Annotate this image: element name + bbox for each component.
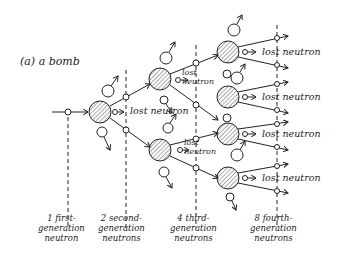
diagram-title: (a) a bomb bbox=[20, 55, 80, 68]
generation-label-1: 1 first- generation neutron bbox=[38, 213, 85, 243]
generation-label-2: 2 second- generation neutrons bbox=[98, 213, 145, 243]
generation-label-4: 8 fourth- generation neutrons bbox=[250, 213, 297, 243]
lost-neutron-label: lost neutron bbox=[182, 68, 212, 86]
lost-neutron-label: lost neutron bbox=[262, 91, 321, 102]
lost-neutron-label: lost neutron bbox=[262, 128, 321, 139]
generation-label-3: 4 third- generation neutrons bbox=[170, 213, 217, 243]
chain-reaction-diagram: (a) a bomb lost neutron lost neutron los… bbox=[0, 0, 355, 262]
lost-neutron-label: lost neutron bbox=[262, 172, 321, 183]
lost-neutron-label: lost neutron bbox=[130, 105, 189, 116]
lost-neutron-label: lost neutron bbox=[184, 138, 214, 156]
lost-neutron-label: lost neutron bbox=[262, 46, 321, 57]
nucleus-1 bbox=[89, 101, 111, 123]
